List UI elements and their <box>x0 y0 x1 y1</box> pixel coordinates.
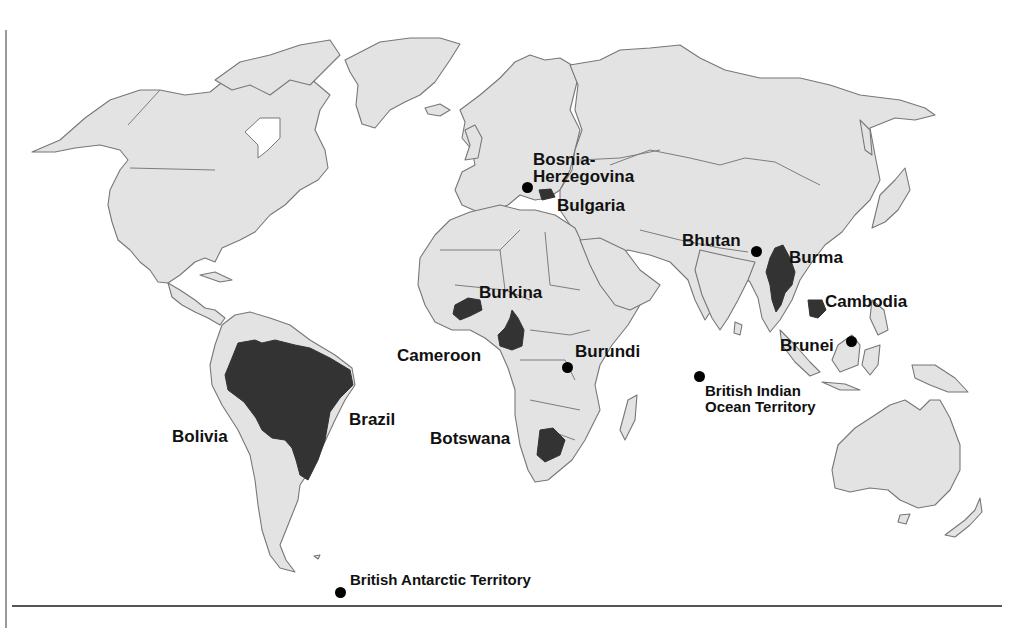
falklands <box>314 555 320 559</box>
java <box>822 382 860 390</box>
label-cambodia: Cambodia <box>825 293 907 310</box>
label-british-indian-ocean-territory: British Indian Ocean Territory <box>705 383 816 415</box>
central-america <box>168 283 225 325</box>
label-bhutan: Bhutan <box>682 232 741 249</box>
sulawesi <box>862 345 880 375</box>
label-bosnia-line2: Herzegovina <box>533 168 634 185</box>
bosnia-herzegovina-marker <box>522 182 533 193</box>
arctic-islands <box>215 40 340 95</box>
iceland <box>425 104 450 116</box>
british-antarctic-territory-marker <box>335 587 346 598</box>
label-burundi: Burundi <box>575 343 640 360</box>
label-biot-line2: Ocean Territory <box>705 399 816 415</box>
new-zealand <box>945 498 982 537</box>
madagascar <box>620 395 637 440</box>
label-bosnia-line1: Bosnia- <box>533 151 634 168</box>
label-burkina: Burkina <box>479 284 542 301</box>
biot-marker <box>694 371 705 382</box>
world-map-graphic <box>0 0 1030 628</box>
new-guinea <box>912 365 968 392</box>
tasmania <box>898 514 910 524</box>
australia <box>832 400 960 508</box>
label-bulgaria: Bulgaria <box>557 197 625 214</box>
north-america <box>32 70 330 283</box>
brunei-marker <box>846 336 857 347</box>
cuba <box>200 272 232 282</box>
label-bosnia-herzegovina: Bosnia- Herzegovina <box>533 151 634 185</box>
world-map: Bosnia- Herzegovina Bulgaria Bhutan Burm… <box>0 0 1030 628</box>
label-botswana: Botswana <box>430 430 510 447</box>
label-british-antarctic-territory: British Antarctic Territory <box>350 572 531 588</box>
label-cameroon: Cameroon <box>397 347 481 364</box>
bhutan-marker <box>751 246 762 257</box>
label-brunei: Brunei <box>780 337 834 354</box>
sri-lanka <box>734 322 742 335</box>
label-brazil: Brazil <box>349 411 395 428</box>
label-biot-line1: British Indian <box>705 383 816 399</box>
burundi-marker <box>562 362 573 373</box>
label-bolivia: Bolivia <box>172 428 228 445</box>
label-burma: Burma <box>789 249 843 266</box>
cambodia-shaded <box>808 300 826 318</box>
